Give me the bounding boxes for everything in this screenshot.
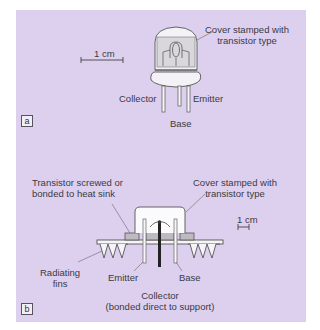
panel-tag-a: a [21, 115, 33, 127]
callout-emitter-a: Emitter [193, 93, 223, 104]
scale-label-b: 1 cm [237, 214, 258, 225]
callout-fins-b: Radiating fins [40, 267, 80, 289]
transistor-leads [162, 86, 190, 112]
callout-emitter-b: Emitter [108, 272, 138, 283]
scale-label-a: 1 cm [94, 48, 115, 59]
transistor-can [151, 27, 201, 87]
callout-collector-b: Collector (bonded direct to support) [103, 290, 217, 312]
callout-cover-b: Cover stamped with transistor type [193, 177, 277, 199]
callout-base-a: Base [170, 118, 192, 129]
panel-tag-b: b [21, 303, 33, 315]
callout-screwed-b: Transistor screwed or bonded to heat sin… [32, 177, 123, 199]
callout-collector-a: Collector [119, 93, 157, 104]
collector-stud [158, 222, 161, 267]
callout-cover-a: Cover stamped with transistor type [205, 24, 289, 46]
callout-base-b: Base [179, 272, 201, 283]
